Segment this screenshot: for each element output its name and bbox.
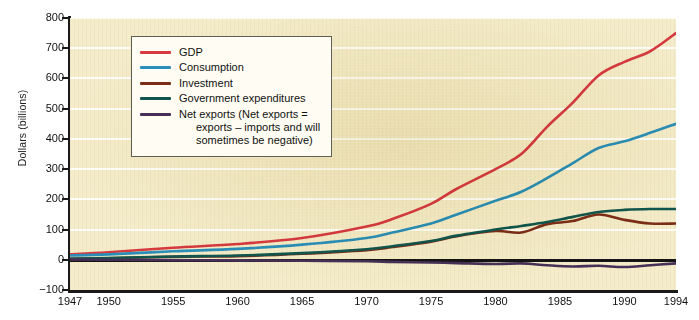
- x-tick-label: 1990: [612, 296, 636, 307]
- x-tick-label: 1975: [419, 296, 443, 307]
- legend-label: Consumption: [179, 61, 244, 74]
- legend-item[interactable]: Net exports (Net exports =exports – impo…: [140, 108, 320, 147]
- legend-item[interactable]: GDP: [140, 46, 320, 59]
- legend-item[interactable]: Investment: [140, 77, 320, 90]
- x-tick-label: 1985: [548, 296, 572, 307]
- chart-legend: GDPConsumptionInvestmentGovernment expen…: [131, 36, 332, 157]
- legend-color-swatch: [140, 113, 171, 116]
- legend-label: GDP: [179, 46, 203, 59]
- legend-label-continuation: exports – imports and will: [179, 121, 320, 134]
- legend-label: Government expenditures: [179, 92, 306, 105]
- x-tick-label: 1980: [483, 296, 507, 307]
- x-tick-label: 1970: [354, 296, 378, 307]
- x-tick-label: 1950: [96, 296, 120, 307]
- series-line: [70, 259, 676, 267]
- legend-item[interactable]: Consumption: [140, 61, 320, 74]
- x-tick-label: 1965: [290, 296, 314, 307]
- x-tick-label: 1955: [161, 296, 185, 307]
- chart-figure: Dollars (billions) 800700600500400300200…: [0, 0, 699, 320]
- legend-color-swatch: [140, 82, 171, 85]
- legend-color-swatch: [140, 97, 171, 100]
- x-tick-label: 1947: [58, 296, 82, 307]
- legend-color-swatch: [140, 51, 171, 54]
- x-axis-line: [68, 290, 678, 293]
- legend-label-continuation: sometimes be negative): [179, 134, 320, 147]
- legend-item[interactable]: Government expenditures: [140, 92, 320, 105]
- legend-label: Net exports (Net exports =exports – impo…: [179, 108, 320, 147]
- x-tick-label: 1960: [225, 296, 249, 307]
- x-tick-label: 1994: [664, 296, 688, 307]
- legend-label: Investment: [179, 77, 233, 90]
- legend-color-swatch: [140, 66, 171, 69]
